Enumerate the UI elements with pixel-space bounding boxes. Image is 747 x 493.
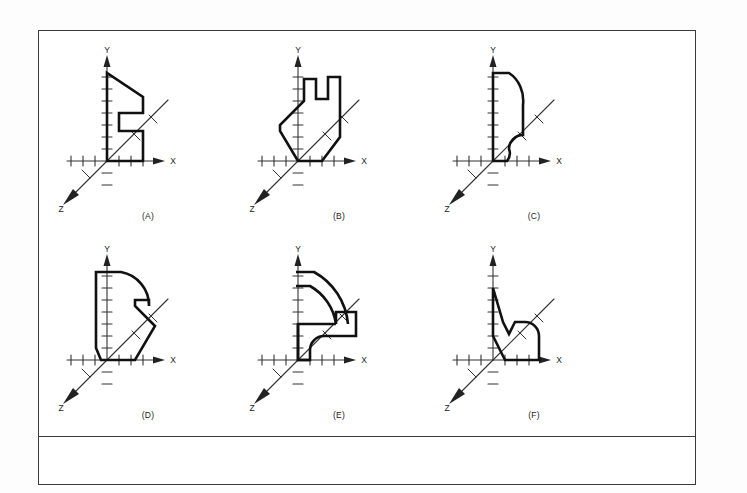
axis-label-y: Y xyxy=(295,45,301,55)
axis-label-y: Y xyxy=(490,45,496,55)
diagram-label-D: (D) xyxy=(53,410,243,420)
diagram-label-E: (E) xyxy=(244,410,434,420)
diagram-B[interactable]: Y X Z (B) xyxy=(244,39,434,229)
axis-label-x: X xyxy=(556,355,562,365)
screenshot-page: Y X Z (A) xyxy=(0,0,747,493)
plate-divider xyxy=(39,436,695,437)
diagram-F[interactable]: Y X Z (F) xyxy=(439,238,629,428)
axis-label-x: X xyxy=(556,156,562,166)
profile-outline-C xyxy=(493,73,523,161)
profile-outline-A xyxy=(107,73,143,161)
diagram-A[interactable]: Y X Z (A) xyxy=(53,39,243,229)
diagram-label-A: (A) xyxy=(53,211,243,221)
axis-label-y: Y xyxy=(490,244,496,254)
diagram-C[interactable]: Y X Z (C) xyxy=(439,39,629,229)
axis-label-x: X xyxy=(170,355,176,365)
axis-label-y: Y xyxy=(295,244,301,254)
axis-label-x: X xyxy=(361,156,367,166)
profile-outline-F xyxy=(493,288,539,360)
diagram-label-B: (B) xyxy=(244,211,434,221)
diagram-label-C: (C) xyxy=(439,211,629,221)
diagram-D[interactable]: Y X Z (D) xyxy=(53,238,243,428)
axis-label-x: X xyxy=(170,156,176,166)
diagram-grid: Y X Z (A) xyxy=(39,31,697,436)
axis-label-x: X xyxy=(361,355,367,365)
profile-outline-D xyxy=(96,272,155,360)
profile-outer-arc-E xyxy=(296,272,348,324)
diagram-E[interactable]: Y X Z (E) xyxy=(244,238,434,428)
axis-label-y: Y xyxy=(104,244,110,254)
diagram-label-F: (F) xyxy=(439,410,629,420)
axis-label-y: Y xyxy=(104,45,110,55)
drawing-plate: Y X Z (A) xyxy=(38,30,696,485)
